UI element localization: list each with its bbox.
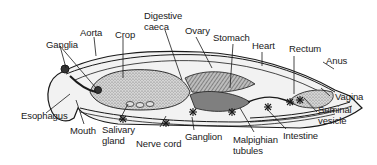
label-ganglion: Ganglion [185,131,222,142]
label-ovary: Ovary [185,25,210,36]
label-ganglia: Ganglia [46,39,78,50]
label-salivary-gland: Salivary gland [102,124,135,146]
label-intestine: Intestine [283,130,318,141]
label-nerve-cord: Nerve cord [136,138,181,149]
label-rectum: Rectum [289,43,321,54]
label-crop: Crop [115,29,135,40]
label-stomach: Stomach [213,32,250,43]
label-malpighian-tubules: Malpighian tubules [233,134,278,156]
label-esophagus: Esophagus [21,110,68,121]
label-seminal-vesicle: Seminal vesicle [318,104,352,126]
label-anus: Anus [326,55,347,66]
label-vagina: Vagina [335,91,363,102]
salivary-gland-beads [126,102,154,108]
label-heart: Heart [252,40,275,51]
label-digestive-caeca: Digestive caeca [144,10,182,32]
label-aorta: Aorta [80,27,102,38]
label-mouth: Mouth [70,125,96,136]
